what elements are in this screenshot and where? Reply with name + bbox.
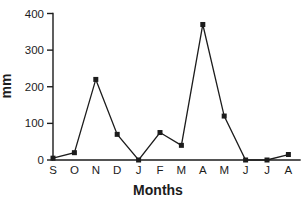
x-axis-label: Months: [133, 182, 183, 198]
x-tick-label: J: [243, 164, 249, 176]
x-tick-label: M: [219, 164, 229, 176]
data-point-marker: [286, 152, 291, 157]
data-point-marker: [93, 77, 98, 82]
x-tick-label: A: [199, 164, 207, 176]
axis-lines: [53, 14, 300, 161]
line-chart: 0100200300400SONDJFMAMJJAmmMonths: [0, 0, 304, 207]
x-tick-label: J: [136, 164, 142, 176]
y-tick-label: 200: [25, 81, 44, 93]
x-tick-label: M: [177, 164, 187, 176]
x-tick-label: S: [49, 164, 57, 176]
y-tick-label: 300: [25, 44, 44, 56]
x-tick-label: A: [285, 164, 293, 176]
data-point-marker: [179, 143, 184, 148]
data-point-marker: [200, 22, 205, 27]
y-axis-label: mm: [0, 74, 14, 99]
data-point-marker: [158, 130, 163, 135]
data-point-marker: [115, 132, 120, 137]
x-tick-label: N: [92, 164, 100, 176]
data-point-marker: [51, 156, 56, 161]
chart-frame: 0100200300400SONDJFMAMJJAmmMonths: [0, 0, 304, 207]
data-point-marker: [243, 158, 248, 163]
x-tick-label: O: [70, 164, 79, 176]
x-tick-label: F: [156, 164, 163, 176]
data-point-marker: [136, 158, 141, 163]
line-series: [53, 24, 288, 160]
data-point-marker: [265, 158, 270, 163]
x-tick-label: J: [264, 164, 270, 176]
y-tick-label: 100: [25, 117, 44, 129]
y-tick-label: 400: [25, 8, 44, 20]
data-point-marker: [72, 150, 77, 155]
data-point-marker: [222, 114, 227, 119]
y-tick-label: 0: [38, 154, 44, 166]
x-tick-label: D: [113, 164, 121, 176]
